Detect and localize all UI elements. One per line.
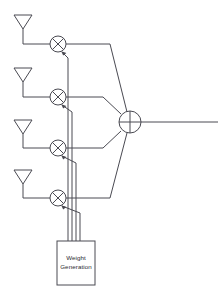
antenna-1 xyxy=(14,15,50,44)
summing-junction[interactable] xyxy=(119,111,141,133)
mixer-3-weight-arrow-icon xyxy=(61,155,66,159)
signal-path-1 xyxy=(66,44,127,112)
mixer-4-weight-arrow-icon xyxy=(61,205,66,209)
signal-path-2 xyxy=(66,97,121,114)
antenna-4-triangle-icon xyxy=(14,170,32,184)
weight-bus-2 xyxy=(62,105,72,241)
mixer-3[interactable] xyxy=(50,140,66,160)
beamformer-diagram: Weight Generation xyxy=(0,0,224,299)
weight-generation-block[interactable]: Weight Generation xyxy=(57,241,95,285)
antenna-3 xyxy=(14,120,50,148)
antenna-4 xyxy=(14,170,50,198)
antenna-1-triangle-icon xyxy=(14,15,32,29)
weight-generation-label-line1: Weight xyxy=(66,254,86,261)
signal-path-4 xyxy=(66,133,127,198)
mixer-4[interactable] xyxy=(50,190,66,210)
weight-generation-label-line2: Generation xyxy=(60,263,92,270)
weight-bus-4 xyxy=(62,206,80,241)
antenna-2-triangle-icon xyxy=(14,68,32,82)
signal-path-3 xyxy=(66,131,121,148)
mixer-1[interactable] xyxy=(50,36,66,56)
mixer-2[interactable] xyxy=(50,89,66,109)
beamformer-canvas: Weight Generation xyxy=(0,0,224,299)
antenna-2 xyxy=(14,68,50,97)
antenna-3-triangle-icon xyxy=(14,120,32,134)
